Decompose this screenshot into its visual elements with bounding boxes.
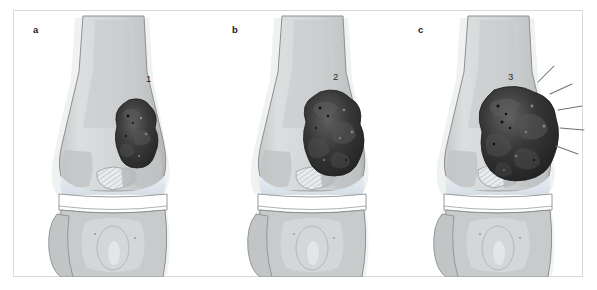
knee-illustration-c	[398, 10, 597, 277]
panel-a: a 1	[13, 10, 212, 277]
panel-letter-a: a	[33, 25, 38, 35]
lesion-number-3: 3	[508, 72, 513, 82]
tibia-speck-b2	[333, 237, 335, 239]
tibia-speck-a1	[94, 233, 96, 235]
tibia-trabecular-core-b	[307, 241, 319, 265]
panel-b: b 2	[212, 10, 411, 277]
tumor-c	[479, 86, 558, 180]
lesion-number-2: 2	[333, 72, 338, 82]
joint-space-a	[59, 194, 167, 213]
panel-letter-b: b	[232, 25, 238, 35]
joint-space-c	[444, 194, 552, 213]
tibia-speck-c2	[519, 237, 521, 239]
tibia-trabecular-core-c	[493, 241, 505, 265]
knee-illustration-a	[13, 10, 212, 277]
tumor-a	[115, 99, 158, 168]
panel-c: c 3	[398, 10, 597, 277]
tibia-speck-b1	[293, 233, 295, 235]
tibia-speck-c1	[479, 233, 481, 235]
figure-container: a 1	[0, 0, 597, 290]
joint-space-b	[258, 194, 366, 213]
panel-letter-c: c	[418, 25, 423, 35]
tibia-trabecular-core-a	[108, 241, 120, 265]
knee-illustration-b	[212, 10, 411, 277]
lesion-number-1: 1	[146, 74, 151, 84]
tibia-speck-a2	[134, 237, 136, 239]
tumor-b	[303, 90, 364, 176]
